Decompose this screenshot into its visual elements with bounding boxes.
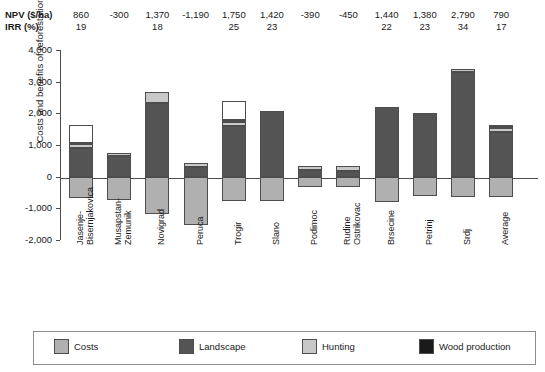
y-tick-mark — [56, 113, 60, 114]
y-tick-mark — [56, 50, 60, 51]
bar-segment-landscape[interactable] — [336, 171, 360, 177]
bar-segment-costs[interactable] — [336, 177, 360, 187]
bar-segment-costs[interactable] — [375, 177, 399, 202]
bar-segment-landscape[interactable] — [375, 107, 399, 177]
x-axis-label: Rudine — [342, 216, 352, 245]
bar-segment-wood-production[interactable] — [69, 143, 93, 145]
y-tick-label: 1,000 — [6, 139, 52, 150]
y-tick-mark — [56, 82, 60, 83]
y-tick-mark — [56, 145, 60, 146]
bar-column[interactable] — [413, 50, 437, 240]
y-axis-title: Costs and benefits of reforestation ($/h… — [34, 0, 45, 143]
bar-segment-hunting[interactable] — [107, 153, 131, 156]
x-axis-label: Srdj — [462, 229, 472, 245]
bar-segment-hunting[interactable] — [145, 92, 169, 102]
npv-row-label: NPV ($/ha) — [5, 9, 53, 21]
x-axis-label: Bisernjakovica — [85, 187, 95, 245]
irr-value: 19 — [58, 21, 104, 32]
chart-figure: NPV ($/ha) IRR (%) 860-3001,370-1,1901,7… — [0, 0, 545, 372]
bar-segment-landscape[interactable] — [107, 156, 131, 177]
bar-segment-costs[interactable] — [413, 177, 437, 196]
y-tick-label: -1,000 — [6, 202, 52, 213]
y-axis-line — [60, 50, 61, 240]
x-axis-label: Ostrikovac — [352, 202, 362, 245]
bar-segment-landscape[interactable] — [145, 103, 169, 177]
x-axis-label: Peruca — [195, 216, 205, 245]
irr-value: 18 — [134, 21, 180, 32]
bar-segment-landscape[interactable] — [298, 170, 322, 176]
bar-segment-landscape[interactable] — [222, 126, 246, 177]
bar-segment-hunting[interactable] — [451, 69, 475, 72]
y-tick-mark — [56, 177, 60, 178]
bar-segment-costs[interactable] — [489, 177, 513, 197]
x-axis-label: Jasenje- — [75, 211, 85, 245]
bar-segment-hunting[interactable] — [184, 163, 208, 167]
bar-segment-wood-production[interactable] — [489, 127, 513, 129]
bar-column[interactable] — [184, 50, 208, 240]
bar-column[interactable] — [222, 50, 246, 240]
y-tick-mark — [56, 208, 60, 209]
y-tick-mark — [56, 240, 60, 241]
bar-segment-costs[interactable] — [222, 177, 246, 201]
bar-segment-wood-production[interactable] — [222, 120, 246, 122]
irr-value: 17 — [478, 21, 524, 32]
x-axis-label: Average — [500, 212, 510, 245]
bar-segment-erosion-protection[interactable] — [69, 125, 93, 143]
bar-segment-costs[interactable] — [451, 177, 475, 197]
bar-segment-hunting[interactable] — [298, 166, 322, 170]
bar-segment-landscape[interactable] — [489, 132, 513, 177]
bar-segment-hunting[interactable] — [336, 166, 360, 171]
bar-segment-costs[interactable] — [107, 177, 131, 201]
legend-label: Hunting — [322, 341, 355, 352]
bar-segment-landscape[interactable] — [451, 72, 475, 177]
x-axis-label: Trogir — [233, 222, 243, 245]
x-axis-label: Musapstan- — [113, 198, 123, 245]
x-axis-label: Podimoc — [309, 210, 319, 245]
legend-swatch-landscape — [179, 339, 194, 354]
x-axis-label: Petrinj — [424, 219, 434, 245]
y-tick-label: 3,000 — [6, 76, 52, 87]
bar-segment-landscape[interactable] — [260, 111, 284, 177]
legend-label: Wood production — [439, 341, 511, 352]
x-axis-label: Novigrad — [156, 209, 166, 245]
npv-value: 790 — [478, 9, 524, 20]
bar-column[interactable] — [451, 50, 475, 240]
bar-segment-landscape[interactable] — [184, 167, 208, 177]
legend-swatch-hunting — [302, 339, 317, 354]
bar-segment-costs[interactable] — [298, 177, 322, 187]
legend-swatch-costs — [54, 339, 69, 354]
bar-segment-landscape[interactable] — [413, 113, 437, 177]
bar-segment-erosion-protection[interactable] — [222, 101, 246, 121]
irr-value: 23 — [249, 21, 295, 32]
y-tick-label: 4,000 — [6, 44, 52, 55]
y-tick-label: 2,000 — [6, 107, 52, 118]
chart-legend: CostsLandscapeHuntingWood productionEros… — [33, 331, 536, 365]
x-axis-label: Brsecine — [386, 210, 396, 245]
legend-swatch-wood-production — [419, 339, 434, 354]
bar-column[interactable] — [260, 50, 284, 240]
bar-segment-hunting[interactable] — [222, 122, 246, 126]
y-tick-label: 0 — [6, 171, 52, 182]
bar-segment-landscape[interactable] — [69, 148, 93, 177]
bar-segment-costs[interactable] — [260, 177, 284, 202]
legend-label: Costs — [74, 341, 98, 352]
x-axis-label: Zemunik — [123, 210, 133, 245]
legend-label: Landscape — [199, 341, 245, 352]
bar-segment-erosion-protection[interactable] — [489, 125, 513, 128]
y-tick-label: -2,000 — [6, 234, 52, 245]
x-axis-label: Slano — [271, 222, 281, 245]
